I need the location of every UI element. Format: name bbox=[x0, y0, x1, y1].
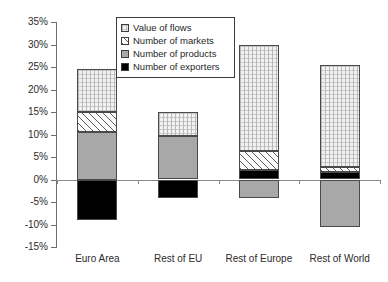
bar-segment-products bbox=[77, 132, 117, 179]
legend-label-number-of-markets: Number of markets bbox=[133, 36, 214, 46]
x-axis-category-label: Rest of Europe bbox=[219, 253, 300, 265]
x-axis-category-label: Euro Area bbox=[57, 253, 138, 265]
legend-swatch-number-of-products-icon bbox=[121, 50, 129, 58]
legend-item-exporters: Number of exporters bbox=[121, 61, 229, 73]
y-axis-tick bbox=[51, 22, 56, 23]
y-axis-tick-label: 0% bbox=[0, 175, 48, 185]
y-axis-tick bbox=[51, 225, 56, 226]
bar-stack bbox=[320, 22, 360, 247]
y-axis-tick-label-text: 0% bbox=[34, 175, 48, 185]
y-axis-tick-label: -5% bbox=[0, 197, 48, 207]
bar-segment-products bbox=[158, 136, 198, 179]
legend-item-flows: Value of flows bbox=[121, 22, 229, 34]
y-axis-tick-label-text: 25% bbox=[28, 62, 48, 72]
y-axis-tick-label-text: 30% bbox=[28, 40, 48, 50]
y-axis-tick bbox=[51, 112, 56, 113]
bar-segment-markets bbox=[77, 112, 117, 132]
bar-segment-exporters bbox=[320, 172, 360, 179]
y-axis-tick-label: 10% bbox=[0, 130, 48, 140]
legend-item-products: Number of products bbox=[121, 48, 229, 60]
y-axis-tick-label: 5% bbox=[0, 152, 48, 162]
bar-group bbox=[77, 22, 117, 247]
bar-segment-markets bbox=[320, 167, 360, 172]
bar-segment-flows bbox=[77, 69, 117, 112]
y-axis-tick-label-text: 10% bbox=[28, 130, 48, 140]
bar-segment-products bbox=[320, 180, 360, 228]
y-axis-tick-label: 20% bbox=[0, 85, 48, 95]
y-axis-tick bbox=[51, 157, 56, 158]
legend-label-value-of-flows: Value of flows bbox=[133, 23, 191, 33]
bar-segment-flows bbox=[158, 112, 198, 137]
y-axis-tick-label: -15% bbox=[0, 242, 48, 252]
legend-label-number-of-exporters: Number of exporters bbox=[133, 62, 220, 72]
y-axis-tick-label-text: 15% bbox=[28, 107, 48, 117]
bar-group bbox=[320, 22, 360, 247]
y-axis-tick-label: 15% bbox=[0, 107, 48, 117]
bar-stack bbox=[239, 22, 279, 247]
bar-segment-markets bbox=[239, 151, 279, 170]
chart-legend: Value of flows Number of markets Number … bbox=[116, 17, 235, 78]
bar-stack bbox=[77, 22, 117, 247]
y-axis-tick-label-text: 5% bbox=[34, 152, 48, 162]
y-axis-tick bbox=[51, 135, 56, 136]
y-axis-tick bbox=[51, 202, 56, 203]
y-axis-tick-label-text: -15% bbox=[25, 242, 48, 252]
bar-segment-flows bbox=[239, 45, 279, 151]
legend-swatch-number-of-markets-icon bbox=[121, 37, 129, 45]
y-axis-tick-label: 30% bbox=[0, 40, 48, 50]
y-axis-tick bbox=[51, 90, 56, 91]
legend-swatch-number-of-exporters-icon bbox=[121, 63, 129, 71]
y-axis-tick bbox=[51, 67, 56, 68]
y-axis-tick-label-text: 35% bbox=[28, 17, 48, 27]
y-axis-tick-label-text: 20% bbox=[28, 85, 48, 95]
y-axis-tick-label-text: -5% bbox=[30, 197, 48, 207]
y-axis-tick-label-text: -10% bbox=[25, 220, 48, 230]
legend-label-number-of-products: Number of products bbox=[133, 49, 216, 59]
y-axis-tick-label: 25% bbox=[0, 62, 48, 72]
x-axis-category-label: Rest of World bbox=[299, 253, 380, 265]
x-axis-tick bbox=[380, 180, 381, 184]
y-axis-tick bbox=[51, 45, 56, 46]
bar-segment-flows bbox=[320, 65, 360, 167]
y-axis-tick-label: -10% bbox=[0, 220, 48, 230]
y-axis-tick bbox=[51, 247, 56, 248]
bar-group bbox=[239, 22, 279, 247]
legend-swatch-value-of-flows-icon bbox=[121, 24, 129, 32]
bar-segment-products bbox=[239, 180, 279, 199]
y-axis-tick-label: 35% bbox=[0, 17, 48, 27]
stacked-bar-chart: 35%30%25%20%15%10%5%0%-5%-10%-15% Euro A… bbox=[0, 0, 388, 282]
bar-segment-exporters bbox=[158, 180, 198, 199]
bar-segment-exporters bbox=[239, 170, 279, 180]
bar-segment-exporters bbox=[77, 180, 117, 221]
legend-item-markets: Number of markets bbox=[121, 35, 229, 47]
x-axis-category-label: Rest of EU bbox=[138, 253, 219, 265]
